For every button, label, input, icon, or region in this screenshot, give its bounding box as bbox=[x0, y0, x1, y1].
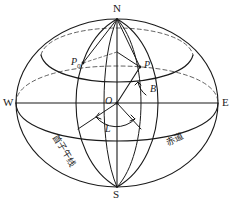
radius-o-to-p bbox=[117, 67, 140, 103]
label-point-p: P bbox=[144, 60, 150, 70]
diagram-canvas bbox=[0, 0, 234, 205]
label-point-p0: P0 bbox=[71, 57, 81, 70]
label-east: E bbox=[222, 97, 229, 108]
label-north-pole: N bbox=[113, 3, 121, 14]
geodetic-sphere-diagram: N S W E O P P0 B L 首子午线 赤道 bbox=[0, 0, 234, 205]
label-center-o: O bbox=[105, 96, 112, 106]
label-point-p0-subscript: 0 bbox=[77, 62, 81, 70]
radius-o-to-prime-meridian-equator bbox=[78, 103, 117, 129]
radius-o-to-p-meridian-equator bbox=[117, 103, 141, 129]
chord-n-to-p0 bbox=[83, 19, 117, 63]
longitude-angle-arc bbox=[96, 117, 135, 127]
label-latitude-angle-b: B bbox=[150, 84, 156, 94]
center-point-marker bbox=[115, 101, 118, 104]
label-longitude-angle-l: L bbox=[105, 124, 111, 134]
point-p-marker bbox=[139, 66, 142, 69]
p0-helper-dashed bbox=[83, 52, 117, 63]
label-south-pole: S bbox=[113, 189, 119, 200]
latitude-angle-arc bbox=[138, 82, 146, 95]
label-west: W bbox=[3, 97, 13, 108]
point-p0-marker bbox=[82, 62, 85, 65]
